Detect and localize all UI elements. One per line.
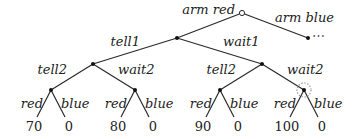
label-tell2-left: tell2: [37, 62, 67, 77]
leaf-label-red-2: red: [105, 96, 127, 111]
node-wait1-wait2: [302, 88, 306, 92]
leaf-label-red-3: red: [190, 96, 212, 111]
node-after-arm-blue: [306, 36, 310, 40]
leaf-label-red-4: red: [274, 96, 296, 111]
leaf-label-red-1: red: [21, 96, 43, 111]
payoff-3: 80: [110, 119, 127, 134]
node-after-tell1: [91, 62, 95, 66]
label-arm-blue: arm blue: [275, 10, 334, 25]
payoff-1: 70: [26, 119, 43, 134]
label-tell2-right: tell2: [206, 62, 236, 77]
continuation-dots: ⋯: [311, 28, 324, 43]
root-node: [239, 10, 244, 15]
payoff-5: 90: [195, 119, 212, 134]
label-tell1: tell1: [110, 34, 140, 49]
leaf-label-blue-1: blue: [61, 96, 90, 111]
node-after-arm-red: [175, 36, 179, 40]
leaf-label-blue-3: blue: [230, 96, 259, 111]
payoff-6: 0: [234, 119, 242, 134]
leaf-label-blue-2: blue: [145, 96, 174, 111]
game-tree-diagram: arm red arm blue ⋯ tell1 wait1 tell2 wai…: [0, 0, 353, 139]
label-arm-red: arm red: [182, 2, 235, 17]
node-wait1-tell2: [218, 88, 222, 92]
payoff-2: 0: [65, 119, 73, 134]
label-wait2-left: wait2: [118, 62, 155, 77]
node-after-wait1: [260, 62, 264, 66]
label-wait2-right: wait2: [287, 62, 324, 77]
payoff-4: 0: [149, 119, 157, 134]
label-wait1: wait1: [223, 34, 260, 49]
leaf-label-blue-4: blue: [314, 96, 343, 111]
node-tell1-wait2: [133, 88, 137, 92]
payoff-7: 100: [275, 119, 300, 134]
payoff-8: 0: [318, 119, 326, 134]
node-tell1-tell2: [49, 88, 53, 92]
